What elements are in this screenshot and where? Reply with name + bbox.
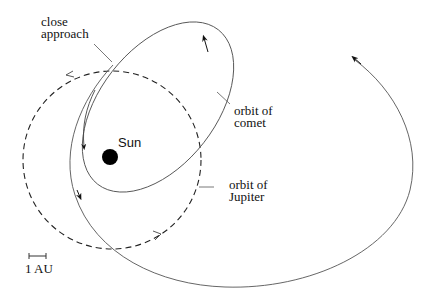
orbit-comet-line2: comet	[234, 117, 273, 129]
sun-label: Sun	[118, 137, 141, 149]
trajectory-arrow-icon	[354, 58, 361, 64]
orbit-jupiter-label: orbit of Jupiter	[229, 179, 268, 203]
close-approach-line2: approach	[41, 28, 89, 40]
scale-bar	[29, 253, 46, 259]
close-approach-label: close approach	[41, 16, 89, 40]
inner-approach-arrow	[83, 90, 95, 147]
orbit-comet-label: orbit of comet	[234, 105, 273, 129]
comet-trajectory	[70, 60, 413, 287]
trajectory-lower-arrow-icon	[77, 190, 80, 197]
scale-label: 1 AU	[25, 263, 53, 275]
orbit-jupiter-line2: Jupiter	[229, 191, 268, 203]
jupiter-direction-arrow-icon	[66, 71, 74, 77]
sun-icon	[102, 149, 118, 165]
close-approach-pointer	[94, 44, 112, 62]
comet-orbit-arrow-icon	[204, 38, 208, 52]
orbit-diagram	[0, 0, 431, 301]
